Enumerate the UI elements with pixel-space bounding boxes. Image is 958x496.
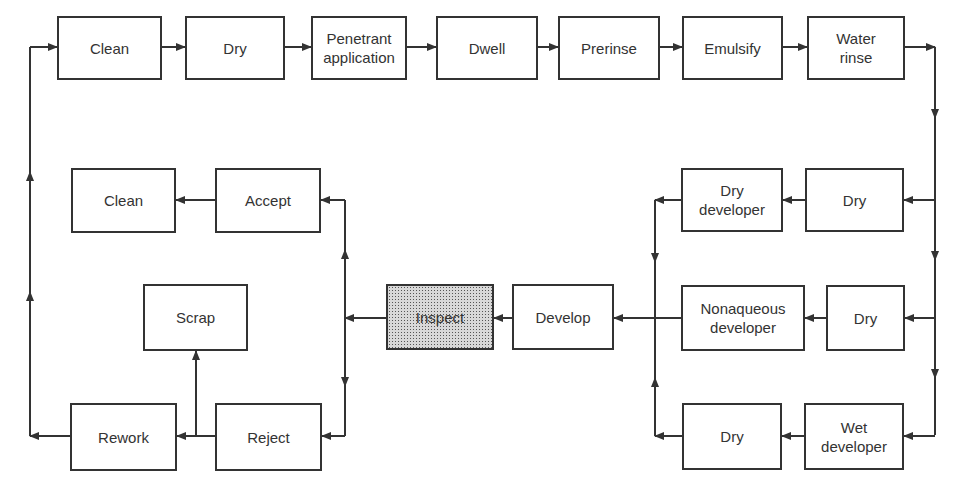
node-label: Wet developer (821, 418, 887, 456)
node-label: Dry (720, 427, 743, 446)
node-label: Water rinse (836, 29, 875, 67)
node-label: Dry (854, 309, 877, 328)
node-clean1: Clean (57, 16, 162, 80)
node-label: Dry (223, 39, 246, 58)
node-label: Nonaqueous developer (700, 299, 785, 337)
node-label: Reject (247, 428, 290, 447)
node-scrap: Scrap (143, 284, 248, 351)
node-label: Clean (104, 191, 143, 210)
node-prerinse: Prerinse (558, 16, 660, 80)
node-label: Develop (535, 308, 590, 327)
node-dwell: Dwell (436, 16, 538, 80)
node-accept: Accept (215, 168, 321, 233)
node-nonaqueous: Nonaqueous developer (681, 285, 805, 351)
node-label: Clean (90, 39, 129, 58)
node-label: Dry developer (699, 181, 765, 219)
node-clean2: Clean (71, 168, 176, 233)
node-label: Penetrant application (323, 29, 395, 67)
node-label: Rework (98, 428, 149, 447)
node-reject: Reject (215, 403, 322, 471)
node-water-rinse: Water rinse (807, 16, 905, 80)
node-label: Emulsify (704, 39, 761, 58)
node-rework: Rework (70, 403, 177, 471)
node-label: Accept (245, 191, 291, 210)
node-develop: Develop (512, 284, 614, 350)
node-label: Dry (843, 191, 866, 210)
node-dry-b: Dry (826, 285, 905, 351)
node-emulsify: Emulsify (682, 16, 783, 80)
node-dry-a: Dry (805, 168, 904, 232)
node-penetrant: Penetrant application (311, 16, 407, 80)
node-dry-developer: Dry developer (681, 168, 783, 232)
node-dry-c: Dry (682, 403, 782, 470)
node-label: Prerinse (581, 39, 637, 58)
node-label: Dwell (469, 39, 506, 58)
node-label: Scrap (176, 308, 215, 327)
node-inspect: Inspect (386, 284, 494, 350)
node-wet-developer: Wet developer (804, 403, 904, 470)
node-label: Inspect (416, 308, 464, 327)
node-dry1: Dry (185, 16, 285, 80)
